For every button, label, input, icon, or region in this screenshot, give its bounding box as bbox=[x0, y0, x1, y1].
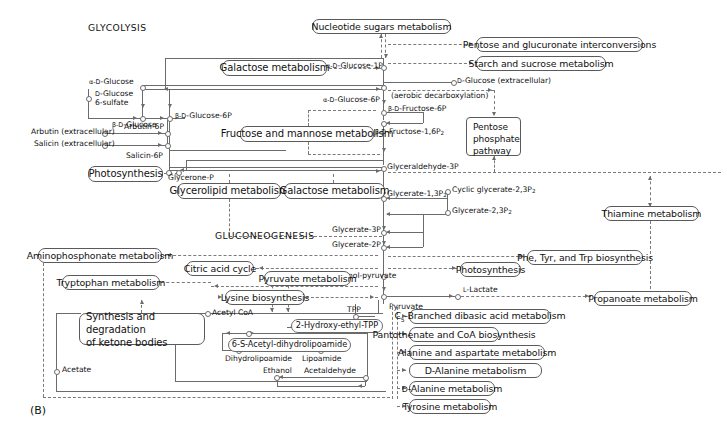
ketone-bodies-label: Synthesis and degradationof ketone bodie… bbox=[86, 310, 198, 349]
pathway-box-lysine-biosynthesis[interactable]: Lysine biosynthesis bbox=[225, 290, 305, 305]
label-d-glucose-6-sulfate: D-Glucose6-sulfate bbox=[95, 89, 133, 108]
dashed-edge bbox=[388, 63, 472, 64]
arrowhead bbox=[648, 176, 652, 180]
compound-box-6-s-acetyl-dihydrolipoamide[interactable]: 6-S-Acetyl-dihydrolipoamide bbox=[228, 338, 351, 352]
compound-node bbox=[205, 311, 211, 317]
pathway-box-glycerolipid-metabolism[interactable]: Glycerolipid metabolism bbox=[177, 183, 281, 199]
compound-node bbox=[274, 375, 280, 381]
pathway-box-pyruvate-metabolism[interactable]: Pyruvate metabolism bbox=[264, 271, 351, 286]
compound-node bbox=[165, 143, 171, 149]
label-ethanol: Ethanol bbox=[263, 367, 292, 375]
arrowhead bbox=[259, 266, 263, 270]
arrowhead bbox=[140, 300, 144, 304]
label-glyceraldehyde-3p: Glyceraldehyde-3P bbox=[387, 163, 459, 171]
arrowhead bbox=[379, 34, 383, 38]
dashed-edge bbox=[306, 297, 378, 298]
label-aerobic-decarboxylation: (aerobic decarboxylation) bbox=[391, 92, 488, 100]
edge-segment bbox=[387, 296, 455, 297]
arrowhead bbox=[133, 116, 137, 120]
arrowhead bbox=[386, 212, 390, 216]
edge-segment bbox=[423, 112, 424, 123]
dashed-edge bbox=[211, 286, 378, 287]
compound-node bbox=[363, 375, 369, 381]
pathway-box-thiamine-metabolism[interactable]: Thiamine metabolism bbox=[604, 206, 699, 221]
pathway-box-photosynthesis-left[interactable]: Photosynthesis bbox=[88, 166, 163, 182]
label-arbutin-6p: Arbutin-6P bbox=[124, 123, 164, 131]
edge-segment bbox=[56, 391, 386, 392]
dashed-edge bbox=[308, 110, 309, 126]
edge-segment bbox=[367, 327, 368, 381]
d-alanine-label: D-Alanine metabolism bbox=[402, 383, 502, 394]
dashed-edge bbox=[161, 282, 211, 283]
pathway-box-pentose-phosphate-pathway[interactable]: Pentosephosphatepathway bbox=[466, 117, 521, 156]
label-glycerone-p: Glycerone-P bbox=[168, 174, 214, 182]
label-acetyl-coa: Acetyl CoA bbox=[212, 309, 253, 317]
pathway-box-galactose-metabolism-mid[interactable]: Galactose metabolism bbox=[284, 183, 385, 199]
dashed-edge bbox=[163, 255, 378, 256]
edge-segment bbox=[423, 214, 424, 232]
compound-node bbox=[381, 85, 387, 91]
pathway-box-tryptophan-metabolism[interactable]: Tryptophan metabolism bbox=[62, 275, 160, 290]
section-title-gluconeogenesis: GLUCONEOGENESIS bbox=[215, 230, 315, 241]
label-alpha-d-glucose-1p: α-D-Glucose-1P bbox=[326, 62, 383, 70]
arrowhead bbox=[158, 143, 162, 147]
pathway-box-d-alanine-metabolism[interactable]: D-Alanine metabolism bbox=[409, 381, 495, 396]
arrowhead bbox=[141, 104, 145, 108]
pathway-box-pentose-and-glucuronate-interconversions[interactable]: Pentose and glucuronate interconversions bbox=[476, 37, 643, 52]
edge-segment bbox=[423, 232, 424, 247]
compound-node bbox=[140, 85, 146, 91]
pathway-box-propanoate-metabolism[interactable]: Propanoate metabolism bbox=[594, 291, 692, 306]
compound-box-2-hydroxy-ethyl-tpp[interactable]: 2-Hydroxy-ethyl-TPP bbox=[291, 319, 383, 333]
dashed-edge bbox=[392, 307, 393, 399]
compound-node bbox=[381, 245, 387, 251]
label-arbutin-extracellular: Arbutin (extracellular) bbox=[31, 128, 115, 136]
arrowhead bbox=[382, 148, 386, 152]
edge-segment bbox=[56, 313, 57, 371]
pathway-box-aminophosphonate-metabolism[interactable]: Aminophosphonate metabolism bbox=[38, 248, 162, 263]
label-beta-d-glucose-6p: β-D-Glucose-6P bbox=[175, 112, 232, 120]
pathway-box-photosynthesis-right[interactable]: Photosynthesis bbox=[460, 262, 521, 277]
label-glycerate-3p: Glycerate-3P bbox=[332, 226, 381, 234]
pathway-box-butanoate-metabolism[interactable]: Pantothenate and CoA biosynthesis bbox=[409, 327, 499, 342]
pathway-diagram-canvas: GLYCOLYSIS GLUCONEOGENESIS (B) bbox=[0, 0, 727, 435]
arrowhead bbox=[488, 88, 492, 92]
compound-node bbox=[54, 369, 60, 375]
label-dihydrolipoamide: Dihydrolipoamide bbox=[225, 355, 292, 363]
edge-segment bbox=[186, 160, 187, 170]
label-acetate: Acetate bbox=[62, 366, 91, 374]
label-l-lactate: L-Lactate bbox=[463, 286, 498, 294]
arrowhead bbox=[382, 287, 386, 291]
edge-segment bbox=[277, 377, 365, 378]
dashed-edge bbox=[388, 268, 457, 269]
edge-segment bbox=[222, 333, 223, 350]
arrowhead bbox=[168, 104, 172, 108]
pathway-box-synthesis-and-degradation-of-ketone-bodies[interactable]: Synthesis and degradationof ketone bodie… bbox=[79, 313, 205, 345]
label-glycerate-2p: Glycerate-2P bbox=[332, 241, 381, 249]
edge-segment bbox=[277, 386, 365, 387]
arrowhead bbox=[376, 169, 380, 173]
pathway-box-citric-acid-cycle[interactable]: Citric acid cycle bbox=[186, 261, 254, 276]
pathway-box-c5-branched-dibasic-acid-metabolism[interactable]: C5-Branched dibasic acid metabolism bbox=[409, 309, 551, 324]
pathway-box-c5-label: C5-Branched dibasic acid metabolism bbox=[394, 310, 565, 323]
edge-segment bbox=[378, 300, 379, 313]
pathway-box-starch-and-sucrose-metabolism[interactable]: Starch and sucrose metabolism bbox=[476, 56, 606, 71]
pathway-box-tyrosine-metabolism[interactable]: Tyrosine metabolism bbox=[409, 399, 491, 414]
label-glycerate-13p2: Glycerate-1,3P2 bbox=[387, 190, 447, 198]
pathway-box-galactose-metabolism-top[interactable]: Galactose metabolism bbox=[222, 60, 327, 76]
pathway-box-alanine-and-aspartate-metabolism[interactable]: D-Alanine metabolism bbox=[409, 363, 542, 378]
label-cyclic-glycerate-23p2: Cyclic glycerate-2,3P2 bbox=[452, 186, 535, 194]
dashed-edge bbox=[650, 176, 651, 206]
dashed-edge bbox=[308, 142, 309, 154]
pathway-box-phe-tyr-trp-biosynthesis[interactable]: Phe, Tyr, and Trp biosynthesis bbox=[527, 250, 643, 265]
compound-node bbox=[167, 116, 173, 122]
pathway-box-pantothenate-and-coa-biosynthesis[interactable]: Alanine and aspartate metabolism bbox=[409, 345, 545, 360]
pathway-box-nucleotide-sugars-metabolism[interactable]: Nucleotide sugars metabolism bbox=[312, 19, 451, 34]
label-beta-d-fructose-6p: β-D-Fructose-6P bbox=[388, 105, 446, 113]
edge-segment bbox=[387, 232, 423, 233]
pathway-box-fructose-and-mannose-metabolism[interactable]: Fructose and mannose metabolism bbox=[240, 126, 374, 142]
dashed-edge bbox=[388, 172, 721, 173]
compound-node bbox=[165, 131, 171, 137]
compound-node bbox=[445, 210, 451, 216]
arrowhead bbox=[164, 87, 168, 91]
arrowhead bbox=[384, 54, 388, 58]
